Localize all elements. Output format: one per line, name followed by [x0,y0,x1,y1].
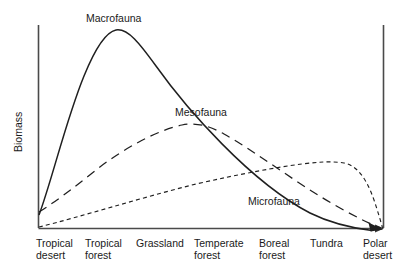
x-tick-label-line1: Tundra [310,237,343,249]
x-tick-label-line1: Temperate [194,237,244,249]
x-tick-label-line1: Tropical [36,237,73,249]
series-label-microfauna: Microfauna [248,195,300,207]
x-tick-label-line1: Grassland [136,237,184,249]
y-axis-title: Biomass [12,112,24,152]
biomass-by-biome-chart: Biomass Macrofauna Mesofauna Microfauna … [0,0,410,271]
x-tick-label-line2: desert [36,249,65,261]
x-tick-label-line1: Boreal [259,237,289,249]
x-tick-label-line2: forest [194,249,220,261]
x-tick-label-line2: forest [259,249,285,261]
x-tick-label-line2: desert [363,249,392,261]
x-tick-label-line2: forest [85,249,111,261]
x-tick-label-line1: Polar [363,237,388,249]
series-label-macrofauna: Macrofauna [86,12,142,24]
series-label-mesofauna: Mesofauna [175,106,227,118]
x-tick-label-line1: Tropical [85,237,122,249]
chart-background [0,0,410,271]
